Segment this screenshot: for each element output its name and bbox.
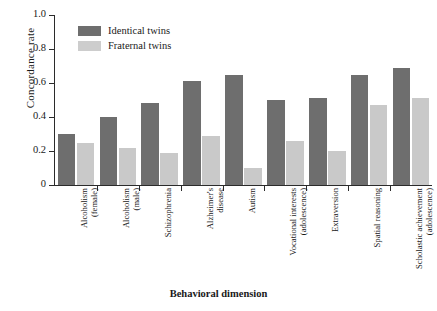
legend-item-identical: Identical twins: [78, 24, 171, 37]
y-axis-tick-label: 0.6: [33, 76, 46, 87]
bar-identical: [58, 134, 76, 185]
y-axis-tick: 0.2: [49, 151, 54, 152]
x-axis-category-label: Scholastic achievement (adolescence): [415, 188, 434, 274]
x-axis-category-label: Alzheimer's disease: [206, 188, 225, 274]
chart-legend: Identical twins Fraternal twins: [78, 24, 171, 54]
legend-swatch-icon-fraternal: [78, 41, 101, 51]
bar-fraternal: [412, 98, 430, 185]
bar-identical: [267, 100, 285, 185]
bar-fraternal: [119, 148, 137, 185]
chart-figure: Concordance rate 00.20.40.60.81.0 Alcoho…: [0, 0, 437, 311]
bar-group: [264, 15, 306, 185]
bar-identical: [393, 68, 411, 185]
y-axis-tick-label: 0.8: [33, 42, 46, 53]
bar-fraternal: [77, 143, 95, 186]
y-axis-tick: 0.4: [49, 117, 54, 118]
y-axis-tick: 0.6: [49, 83, 54, 84]
x-axis-category-label: Alcoholism (female): [80, 188, 99, 274]
x-axis-title: Behavioral dimension: [0, 288, 437, 299]
x-axis-category-label: Autism: [248, 188, 258, 274]
bar-identical: [225, 75, 243, 186]
x-axis-line: [54, 185, 432, 186]
x-axis-category-label: Vocational interests (adolescence): [289, 188, 308, 274]
bar-identical: [183, 81, 201, 185]
legend-item-fraternal: Fraternal twins: [78, 39, 171, 52]
bar-group: [306, 15, 348, 185]
bar-group: [390, 15, 432, 185]
x-axis-category-label: Schizophrenia: [164, 188, 174, 274]
y-axis-tick-label: 0: [41, 178, 46, 189]
bar-fraternal: [244, 168, 262, 185]
bar-fraternal: [202, 136, 220, 185]
bar-fraternal: [370, 105, 388, 185]
y-axis-tick: 0.8: [49, 49, 54, 50]
bar-identical: [100, 117, 118, 185]
x-axis-category-label: Extraversion: [331, 188, 341, 274]
x-axis-category-label: Spatial reasoning: [373, 188, 383, 274]
y-axis-tick-label: 1.0: [33, 8, 46, 19]
legend-swatch-icon-identical: [78, 26, 101, 36]
y-axis-tick-label: 0.2: [33, 144, 46, 155]
legend-label-identical: Identical twins: [108, 25, 170, 36]
bar-group: [181, 15, 223, 185]
bar-fraternal: [160, 153, 178, 185]
bar-group: [348, 15, 390, 185]
y-axis-tick: 0: [49, 185, 54, 186]
y-axis-tick: 1.0: [49, 15, 54, 16]
bar-identical: [351, 75, 369, 186]
x-axis-category-labels: Alcoholism (female)Alcoholism (male)Schi…: [55, 188, 433, 276]
legend-label-fraternal: Fraternal twins: [108, 40, 171, 51]
bar-fraternal: [286, 141, 304, 185]
bar-identical: [309, 98, 327, 185]
y-axis-tick-label: 0.4: [33, 110, 46, 121]
bar-fraternal: [328, 151, 346, 185]
bar-identical: [141, 103, 159, 185]
bar-group: [223, 15, 265, 185]
x-axis-category-label: Alcoholism (male): [122, 188, 141, 274]
